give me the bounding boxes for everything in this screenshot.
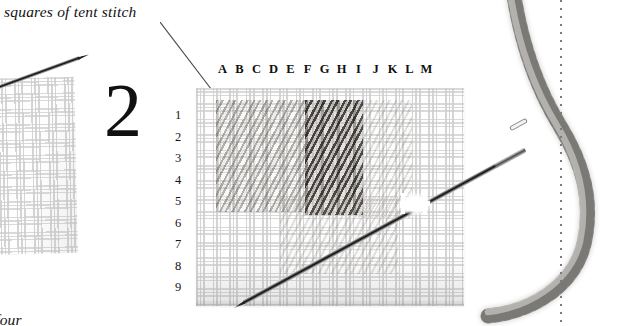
illustration-stage: squares of tent stitch e four ds 2 A B C… — [0, 0, 631, 326]
grid-row-label: 1 — [172, 105, 184, 127]
secondary-canvas-swatch — [0, 77, 78, 255]
grid-row-label: 8 — [172, 256, 184, 278]
tent-stitch-block-lower — [280, 196, 398, 274]
grid-column-labels: A B C D E F G H I J K L M — [214, 62, 435, 77]
caption-bottom-left: e four ds — [0, 272, 22, 326]
grid-column-label: D — [265, 62, 282, 77]
grid-column-label: G — [316, 62, 333, 77]
grid-column-label: K — [384, 62, 401, 77]
grid-row-label: 5 — [172, 191, 184, 213]
grid-column-label: A — [214, 62, 231, 77]
grid-column-label: M — [418, 62, 435, 77]
grid-column-label: C — [248, 62, 265, 77]
grid-column-label: L — [401, 62, 418, 77]
grid-row-labels: 1 2 3 4 5 6 7 8 9 — [172, 105, 184, 299]
grid-column-label: E — [282, 62, 299, 77]
grid-row-label: 4 — [172, 170, 184, 192]
grid-row-label: 9 — [172, 277, 184, 299]
wool-yarn-loop — [452, 0, 631, 326]
grid-row-label: 2 — [172, 127, 184, 149]
grid-column-label: H — [333, 62, 350, 77]
step-number: 2 — [104, 72, 142, 148]
grid-column-label: F — [299, 62, 316, 77]
grid-column-label: I — [350, 62, 367, 77]
grid-column-label: J — [367, 62, 384, 77]
grid-row-label: 3 — [172, 148, 184, 170]
caption-top-left: squares of tent stitch — [4, 2, 137, 21]
grid-row-label: 7 — [172, 234, 184, 256]
grid-row-label: 6 — [172, 213, 184, 235]
grid-column-label: B — [231, 62, 248, 77]
caption-bottom-line-1: e four — [0, 310, 22, 326]
dotted-trim-guide — [560, 0, 562, 326]
stitch-entry-highlight — [398, 192, 432, 216]
